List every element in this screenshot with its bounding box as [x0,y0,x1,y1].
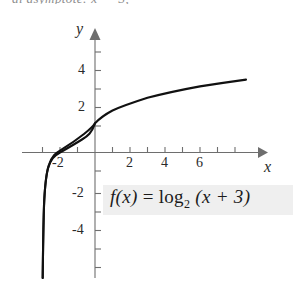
graph-canvas [0,0,300,284]
x-tick-label-2: 2 [126,155,133,171]
x-axis-arrowhead [258,147,268,158]
x-tick-label-neg2: -2 [52,155,64,171]
log-function-figure: al asymptote: x = -3, [0,0,300,284]
x-tick-label-6: 6 [196,155,203,171]
formula-argument: (x + 3) [195,186,250,207]
formula-log: log [159,186,184,207]
x-axis-label: x [264,158,271,176]
formula-equals: = [138,186,159,207]
y-axis-label: y [76,20,83,38]
function-formula-label: f(x) = log2 (x + 3) [110,186,250,212]
x-tick-label-4: 4 [161,155,168,171]
formula-lhs: f(x) [110,186,138,207]
y-axis-arrowhead [90,28,101,40]
function-curve [43,80,246,278]
y-tick-label-4: 4 [78,62,85,78]
y-tick-label-neg4: -4 [72,222,84,238]
y-tick-label-2: 2 [78,99,85,115]
y-tick-label-neg2: -2 [72,185,84,201]
